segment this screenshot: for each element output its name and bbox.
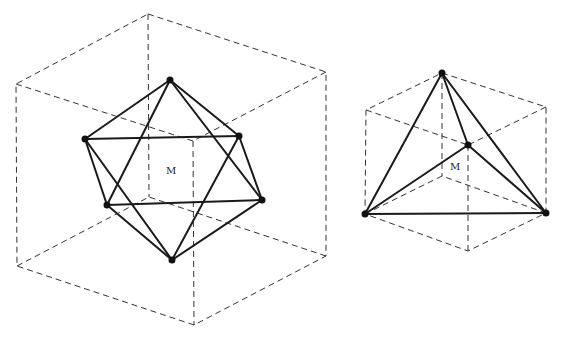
center-label: M xyxy=(166,165,176,176)
diagram-canvas: M M xyxy=(0,0,562,343)
icosahedron-figure: M xyxy=(16,14,326,325)
vertex-point xyxy=(259,197,266,204)
vertex-point xyxy=(236,133,243,140)
vertex-point xyxy=(362,211,369,218)
vertex-point xyxy=(82,136,89,143)
vertex-point xyxy=(439,70,446,77)
center-label: M xyxy=(450,161,460,172)
vertex-point xyxy=(167,77,174,84)
vertex-point xyxy=(169,257,176,264)
tetrahedron-figure: M xyxy=(362,70,550,252)
tetrahedron-edges xyxy=(365,73,546,214)
vertex-point xyxy=(543,210,550,217)
vertex-point xyxy=(104,202,111,209)
vertex-point xyxy=(465,142,472,149)
